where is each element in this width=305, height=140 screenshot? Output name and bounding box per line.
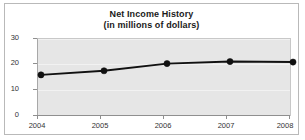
data-point-2005 (101, 68, 107, 74)
data-point-2004 (38, 72, 44, 78)
data-point-2007 (227, 58, 233, 64)
data-series-layer (5, 4, 305, 140)
data-point-2006 (164, 60, 170, 66)
data-point-2008 (290, 59, 296, 65)
chart-figure: Net Income History (in millions of dolla… (4, 3, 299, 135)
